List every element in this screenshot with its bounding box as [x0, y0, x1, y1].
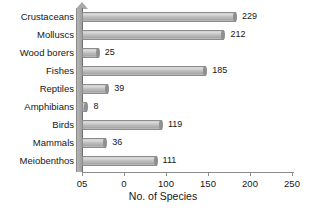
x-axis-tick: [292, 172, 293, 176]
bar-row: 119: [82, 116, 204, 134]
category-label: Mammals: [0, 134, 78, 152]
x-axis-tick: [208, 172, 209, 176]
category-label: Birds: [0, 116, 78, 134]
bar-row: 212: [82, 26, 266, 44]
category-label: Crustaceans: [0, 8, 78, 26]
bar-end-cap: [154, 156, 158, 166]
bar-value-label: 25: [105, 47, 115, 57]
bar-value-label: 185: [212, 65, 227, 75]
bar-value-label: 8: [93, 101, 98, 111]
bar-end-cap: [105, 84, 109, 94]
bar: [82, 12, 236, 22]
category-label: Amphibians: [0, 98, 78, 116]
category-label: Fishes: [0, 62, 78, 80]
bar-chart: Crustaceans Molluscs Wood borers Fishes …: [0, 0, 326, 215]
bar-end-cap: [96, 48, 100, 58]
x-axis-title: No. of Species: [0, 190, 326, 202]
category-label: Wood borers: [0, 44, 78, 62]
bar-end-cap: [233, 12, 237, 22]
bar-row: 39: [82, 80, 150, 98]
plot-area: 2292122518539811936111 050100150200250: [82, 8, 294, 172]
x-axis-tick-label: 100: [146, 178, 186, 189]
x-axis-tick-label: 250: [272, 178, 312, 189]
bar-end-cap: [159, 120, 163, 130]
x-axis-tick-label: 200: [230, 178, 270, 189]
category-label: Meiobenthos: [0, 152, 78, 170]
x-axis-tick-label: 0: [104, 178, 144, 189]
bar-row: 36: [82, 134, 148, 152]
bar-end-cap: [103, 138, 107, 148]
bar-row: 111: [82, 152, 199, 170]
bar-row: 185: [82, 62, 248, 80]
x-axis-tick-label: 05: [62, 178, 102, 189]
x-axis-tick-label: 150: [188, 178, 228, 189]
bar-end-cap: [203, 66, 207, 76]
bar-row: 8: [82, 98, 129, 116]
bar-value-label: 39: [114, 83, 124, 93]
x-axis-tick: [124, 172, 125, 176]
bar: [82, 66, 206, 76]
category-label: Reptiles: [0, 80, 78, 98]
category-label: Molluscs: [0, 26, 78, 44]
bar: [82, 120, 162, 130]
x-axis-tick: [82, 172, 83, 176]
bar-row: 25: [82, 44, 141, 62]
bar-end-cap: [221, 30, 225, 40]
category-axis-labels: Crustaceans Molluscs Wood borers Fishes …: [0, 8, 78, 170]
bar-row: 229: [82, 8, 278, 26]
x-axis-tick: [250, 172, 251, 176]
bar: [82, 30, 224, 40]
x-axis-line: [82, 172, 294, 173]
bar-value-label: 36: [112, 137, 122, 147]
bar-value-label: 111: [163, 155, 177, 165]
bar-end-cap: [84, 102, 88, 112]
bar: [82, 156, 157, 166]
bar-value-label: 229: [242, 11, 257, 21]
bar-value-label: 119: [168, 119, 182, 129]
x-axis-tick: [166, 172, 167, 176]
bar-value-label: 212: [230, 29, 245, 39]
